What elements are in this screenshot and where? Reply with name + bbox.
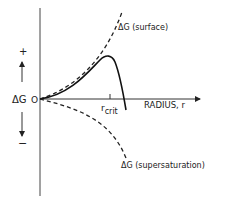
nucleation-diagram: + − ΔG O rcrit RADIUS, r ΔG (surface) ΔG… [0, 0, 227, 213]
radius-axis-label: RADIUS, r [144, 100, 185, 110]
r-crit-label: rcrit [101, 103, 118, 116]
surface-curve [40, 12, 122, 99]
surface-curve-label: ΔG (surface) [118, 23, 168, 32]
supersaturation-curve-label: ΔG (supersaturation) [121, 161, 205, 170]
positive-sign: + [19, 46, 27, 57]
total-free-energy-curve [40, 56, 126, 110]
delta-g-label: ΔG [12, 94, 27, 105]
negative-sign: − [18, 137, 27, 150]
origin-label: O [31, 95, 38, 105]
